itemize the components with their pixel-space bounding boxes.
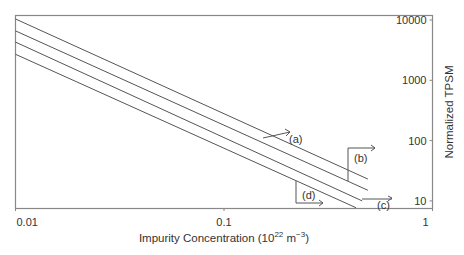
- x-tick-label: 1: [422, 216, 428, 228]
- y-tick-label: 10000: [396, 14, 427, 26]
- x-tick-label: 0.1: [216, 216, 231, 228]
- series-line-a: [16, 19, 368, 179]
- annotation-d-label: (d): [302, 189, 315, 201]
- y-axis: 10000100010010: [396, 14, 433, 207]
- x-axis-title: Impurity Concentration (1022 m−3): [139, 230, 309, 244]
- annotation-c-label: (c): [377, 199, 390, 211]
- series-line-c: [16, 42, 363, 201]
- series-line-b: [16, 31, 368, 190]
- x-tick-label: 0.01: [17, 216, 38, 228]
- y-tick-label: 100: [408, 135, 426, 147]
- plot-frame: [16, 16, 433, 209]
- y-tick-label: 1000: [402, 74, 426, 86]
- series-lines: [16, 19, 368, 208]
- annotation-b-label: (b): [354, 152, 367, 164]
- series-line-d: [16, 54, 357, 207]
- y-axis-title: Normalized TPSM: [443, 65, 455, 158]
- chart-canvas: (a) (b) (c) (d) 10000100010010 0.010.11 …: [0, 0, 464, 255]
- annotation-a-label: (a): [289, 133, 302, 145]
- y-tick-label: 10: [414, 195, 426, 207]
- x-axis: 0.010.11: [16, 208, 433, 228]
